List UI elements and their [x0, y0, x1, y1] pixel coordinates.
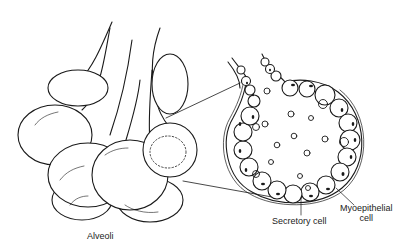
- label-myoepithelial-line2: cell: [340, 213, 393, 223]
- label-alveoli: Alveoli: [87, 231, 114, 241]
- label-myoepithelial-cell: Myoepithelial cell: [340, 203, 393, 223]
- label-myoepithelial-line1: Myoepithelial: [340, 203, 393, 213]
- alveolus: [152, 54, 188, 114]
- magnified-alveolus: [223, 54, 363, 205]
- alveolus: [143, 123, 197, 177]
- alveoli-cluster: [18, 54, 197, 222]
- label-secretory-cell: Secretory cell: [272, 216, 327, 226]
- diagram-stage: Alveoli Secretory cell Myoepithelial cel…: [0, 0, 410, 251]
- alveolus: [48, 70, 108, 106]
